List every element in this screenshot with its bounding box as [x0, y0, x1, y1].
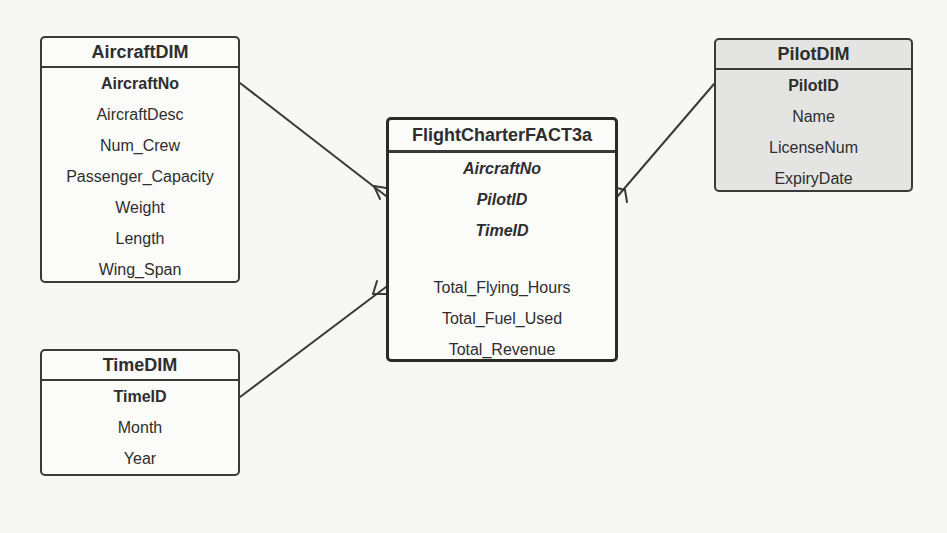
measure-attribute: Total_Fuel_Used: [389, 303, 615, 334]
attribute: Wing_Span: [42, 254, 238, 285]
diagram-canvas: AircraftDIM AircraftNo AircraftDesc Num_…: [0, 0, 947, 533]
foreign-key-attribute: PilotID: [389, 184, 615, 215]
attribute: Month: [42, 412, 238, 443]
foreign-key-attribute: TimeID: [389, 215, 615, 246]
relationship-aircraft-fact: [240, 83, 386, 199]
attribute: LicenseNum: [716, 132, 911, 163]
entity-title: TimeDIM: [42, 351, 238, 381]
entity-fact-table[interactable]: FlightCharterFACT3a AircraftNo PilotID T…: [386, 117, 618, 362]
attribute: Length: [42, 223, 238, 254]
entity-title: FlightCharterFACT3a: [389, 120, 615, 153]
measure-attribute: Total_Flying_Hours: [389, 272, 615, 303]
entity-title: PilotDIM: [716, 40, 911, 70]
entity-time-dim[interactable]: TimeDIM TimeID Month Year: [40, 349, 240, 476]
foreign-key-attribute: AircraftNo: [389, 153, 615, 184]
attribute: Year: [42, 443, 238, 474]
attribute: Passenger_Capacity: [42, 161, 238, 192]
attribute: Num_Crew: [42, 130, 238, 161]
entity-aircraft-dim[interactable]: AircraftDIM AircraftNo AircraftDesc Num_…: [40, 36, 240, 283]
primary-key-attribute: AircraftNo: [42, 68, 238, 99]
measure-attribute: Total_Revenue: [389, 334, 615, 365]
attribute: ExpiryDate: [716, 163, 911, 194]
attribute: AircraftDesc: [42, 99, 238, 130]
relationship-pilot-fact: [617, 84, 714, 202]
attribute: Weight: [42, 192, 238, 223]
entity-title: AircraftDIM: [42, 38, 238, 68]
attribute-spacer: [389, 246, 615, 272]
primary-key-attribute: PilotID: [716, 70, 911, 101]
relationship-time-fact: [240, 281, 386, 397]
entity-pilot-dim[interactable]: PilotDIM PilotID Name LicenseNum ExpiryD…: [714, 38, 913, 192]
primary-key-attribute: TimeID: [42, 381, 238, 412]
attribute: Name: [716, 101, 911, 132]
